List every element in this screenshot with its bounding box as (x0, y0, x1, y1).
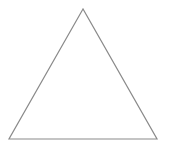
triangle-shape (9, 9, 157, 139)
triangle-figure (0, 0, 169, 151)
diagram-canvas (0, 0, 169, 151)
